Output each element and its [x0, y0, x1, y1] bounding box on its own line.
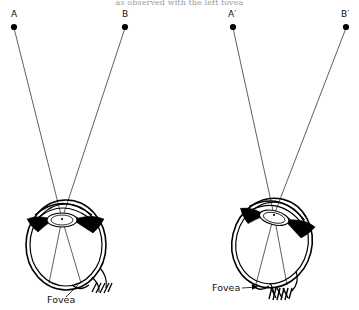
optic-nerve-hatching — [92, 282, 112, 293]
ray-from-A — [14, 28, 81, 283]
eye-fovea-figure: as observed with the left fovea — [0, 0, 359, 310]
left-eye-diagram: Fovea A B — [11, 9, 128, 305]
left-eye-optic-nerve — [92, 268, 112, 293]
point-A-prime-label: A′ — [228, 9, 236, 19]
right-eye-diagram: Fovea A′ B′ — [212, 9, 349, 300]
point-A: A — [11, 9, 18, 30]
fovea-label-right: Fovea — [212, 282, 240, 293]
point-B-prime-dot — [343, 24, 349, 30]
point-B-prime: B′ — [341, 9, 349, 30]
left-eye-light-rays — [14, 28, 125, 283]
right-eye-light-rays — [233, 28, 346, 285]
ray-from-B — [49, 28, 125, 283]
pupil-marker — [61, 218, 63, 220]
point-B-label: B — [122, 9, 128, 19]
point-B: B — [122, 9, 128, 30]
ray-from-B-prime — [256, 28, 346, 284]
point-A-dot — [11, 24, 17, 30]
pupil-marker — [273, 214, 275, 216]
right-eye-lens — [258, 207, 290, 228]
point-A-label: A — [11, 9, 18, 19]
figure-canvas: Fovea A B — [0, 0, 359, 310]
point-B-prime-label: B′ — [341, 9, 349, 19]
lens-ellipse — [258, 207, 290, 228]
point-B-dot — [122, 24, 128, 30]
fovea-label-left: Fovea — [47, 294, 75, 305]
ray-from-A-prime — [233, 28, 287, 285]
optic-nerve-upper-sheath — [100, 268, 106, 288]
point-A-prime: A′ — [228, 9, 236, 30]
point-A-prime-dot — [230, 24, 236, 30]
